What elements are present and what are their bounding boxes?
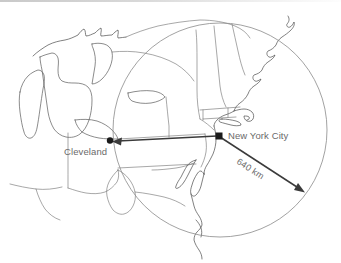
nh-maine-border [232,24,245,75]
lake-huron-outline [92,43,112,84]
new-jersey-coastline [204,126,216,174]
west-virginia-border [107,170,136,214]
pa-nj-border [201,134,206,167]
lake-michigan-outline [19,70,44,138]
indiana-kentucky-border [10,184,62,189]
maryland-border [152,163,194,170]
map-canvas: New York City Cleveland 640 km [0,0,341,263]
lake-ontario-outline [128,91,165,104]
ct-ri-border [203,117,236,119]
distance-map-figure: New York City Cleveland 640 km [0,0,341,263]
lake-erie-outline [75,119,118,139]
distance-vectors-group [112,136,305,193]
cleveland-marker[interactable] [107,137,113,143]
kentucky-south-border [36,189,60,220]
long-island-outline [219,119,241,126]
canada-border-lower [112,51,194,81]
ny-vt-border [196,30,200,119]
michigan-peninsula-outline [40,53,92,137]
canada-border-line [126,20,250,38]
distance-radius-circle [113,23,327,237]
new-york-city-marker[interactable] [216,133,223,140]
vermont-nh-border [214,26,226,107]
nyc-radius-line [220,137,300,189]
new-york-city-label: New York City [228,130,289,141]
nyc-to-cleveland-line [118,136,217,141]
nyc-state-line [200,119,214,130]
state-boundaries-group [10,24,245,220]
distance-label: 640 km [235,156,266,181]
delmarva-peninsula [191,171,204,196]
rhode-island-coastline [214,111,234,126]
ohio-river-border [68,170,119,194]
ma-ct-border [200,107,240,110]
cape-cod-coastline [234,109,254,121]
radius-arrowhead [294,183,305,193]
ny-west-interior [166,97,169,137]
cleveland-label: Cleveland [64,146,107,157]
